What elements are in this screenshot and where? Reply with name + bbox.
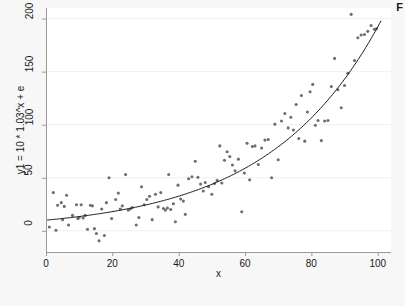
scatter-point [80, 203, 83, 206]
scatter-point [167, 173, 170, 176]
scatter-point [257, 163, 260, 166]
scatter-point [228, 155, 231, 158]
scatter-point [333, 57, 336, 60]
scatter-point [199, 183, 202, 186]
scatter-point [311, 83, 314, 86]
scatter-point [204, 181, 207, 184]
scatter-point [65, 194, 68, 197]
scatter-point [194, 160, 197, 163]
scatter-point [95, 232, 98, 235]
scatter-point [151, 218, 154, 221]
scatter-point [243, 171, 246, 174]
scatter-point [223, 159, 226, 162]
scatter-point [182, 200, 185, 203]
scatter-point [283, 112, 286, 115]
scatter-point [148, 195, 151, 198]
scatter-point [323, 119, 326, 122]
scatter-point [356, 36, 359, 39]
scatter-point [135, 223, 138, 226]
scatter-point [91, 204, 94, 207]
scatter-point [172, 202, 175, 205]
figure-corner-label: F [396, 1, 403, 13]
scatter-point [124, 173, 127, 176]
scatter-point [174, 220, 177, 223]
scatter-point [114, 198, 117, 201]
scatter-point [210, 193, 213, 196]
scatter-point [292, 128, 295, 131]
scatter-point [48, 226, 51, 229]
scatter-point [86, 228, 89, 231]
scatter-point [179, 197, 182, 200]
scatter-point [56, 204, 59, 207]
y-axis-title: y1 = 10 * 1.03^x + e [14, 8, 28, 252]
scatter-point [67, 223, 70, 226]
scatter-points-group [48, 13, 378, 243]
scatter-point [63, 205, 66, 208]
scatter-point [270, 176, 273, 179]
scatter-point [340, 106, 343, 109]
scatter-point [306, 110, 309, 113]
gridlines-group [46, 19, 391, 231]
scatter-point [314, 124, 317, 127]
scatter-point [260, 146, 263, 149]
scatter-point [360, 34, 363, 37]
scatter-point [300, 94, 303, 97]
x-axis-title: x [46, 268, 391, 279]
scatter-point [159, 191, 162, 194]
scatter-point [370, 24, 373, 27]
scatter-point [82, 217, 85, 220]
scatter-point [234, 169, 237, 172]
scatter-point [202, 189, 205, 192]
scatter-point [267, 138, 270, 141]
scatter-point [330, 85, 333, 88]
scatter-point [196, 176, 199, 179]
scatter-point [140, 185, 143, 188]
scatter-point [316, 119, 319, 122]
scatter-point [309, 90, 312, 93]
scatter-point [60, 201, 63, 204]
scatter-point [277, 158, 280, 161]
plot-area [46, 8, 391, 252]
scatter-point [343, 84, 346, 87]
scatter-point [253, 144, 256, 147]
scatter-point [289, 116, 292, 119]
scatter-point [93, 227, 96, 230]
scatter-point [273, 123, 276, 126]
scatter-point [98, 239, 101, 242]
scatter-point [54, 229, 57, 232]
scatter-point [226, 150, 229, 153]
scatter-point [245, 142, 248, 145]
scatter-point [121, 204, 124, 207]
scatter-point [154, 193, 157, 196]
scatter-point [231, 163, 234, 166]
scatter-point [363, 33, 366, 36]
scatter-point [145, 198, 148, 201]
scatter-point [297, 137, 300, 140]
scatter-point [110, 217, 113, 220]
scatter-point [52, 191, 55, 194]
scatter-point [75, 203, 78, 206]
scatter-point [137, 216, 140, 219]
scatter-point [166, 206, 169, 209]
scatter-point [287, 126, 290, 129]
scatter-point [176, 184, 179, 187]
scatter-point [320, 139, 323, 142]
scatter-point [107, 176, 110, 179]
chart-figure: F 050100150200 020406080100 y1 = 10 * 1.… [0, 0, 405, 306]
scatter-point [240, 210, 243, 213]
scatter-point [248, 178, 251, 181]
scatter-point [184, 213, 187, 216]
scatter-point [103, 234, 106, 237]
plot-canvas [46, 8, 391, 252]
scatter-point [263, 139, 266, 142]
scatter-point [295, 103, 298, 106]
scatter-point [105, 201, 108, 204]
scatter-point [71, 214, 74, 217]
scatter-point [100, 207, 103, 210]
exponential-fit-curve [46, 21, 381, 220]
scatter-point [218, 144, 221, 147]
scatter-point [350, 13, 353, 16]
scatter-point [326, 119, 329, 122]
scatter-point [157, 205, 160, 208]
scatter-point [303, 140, 306, 143]
